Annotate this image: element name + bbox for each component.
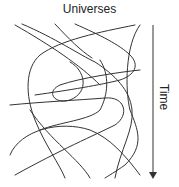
universes-curves bbox=[0, 0, 179, 187]
universe-line bbox=[105, 25, 140, 178]
universe-line bbox=[40, 60, 107, 130]
arrow-head-icon bbox=[149, 172, 157, 179]
time-axis-label: Time bbox=[157, 84, 171, 110]
time-arrow bbox=[149, 25, 157, 179]
universe-line bbox=[22, 24, 132, 178]
